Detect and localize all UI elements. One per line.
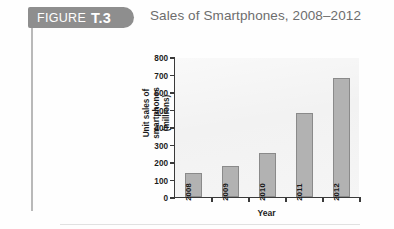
figure-title: Sales of Smartphones, 2008–2012 (150, 8, 361, 23)
y-axis-tick-label: 400 (154, 124, 168, 133)
y-axis-tick-label: 700 (154, 71, 168, 80)
bar-year-label: 2012 (332, 183, 341, 201)
plot-area: 0100200300400500600700800200820092010201… (174, 58, 359, 198)
x-axis-tick (359, 197, 360, 202)
figure-badge-number: T.3 (91, 10, 111, 26)
y-axis-tick (170, 197, 175, 198)
left-vertical-rule (31, 26, 33, 211)
bar: 2010 (259, 153, 276, 197)
figure-page: FIGURE T.3 Sales of Smartphones, 2008–20… (0, 0, 394, 229)
x-axis-tick (322, 197, 323, 202)
y-axis-tick-label: 100 (154, 176, 168, 185)
y-axis-tick (170, 145, 175, 146)
y-axis-tick (170, 75, 175, 76)
bar-chart: Unit sales of smartphones (millions) 010… (123, 50, 368, 220)
bar-year-label: 2011 (295, 183, 304, 200)
x-axis-label: Year (174, 208, 359, 218)
y-axis-tick (170, 162, 175, 163)
bar: 2008 (185, 173, 202, 198)
figure-badge-word: FIGURE (37, 11, 86, 25)
page-bottom-line (60, 224, 360, 225)
figure-badge: FIGURE T.3 (28, 7, 134, 28)
y-axis-tick-label: 200 (154, 159, 168, 168)
bar: 2011 (296, 113, 313, 197)
y-axis-tick-label: 0 (163, 194, 168, 203)
y-axis-tick (170, 127, 175, 128)
bar: 2009 (222, 166, 239, 197)
x-axis-tick (248, 197, 249, 202)
y-axis-tick (170, 110, 175, 111)
y-axis-tick-label: 800 (154, 54, 168, 63)
bar-year-label: 2008 (184, 183, 193, 201)
y-axis-tick-label: 300 (154, 141, 168, 150)
bar-year-label: 2010 (258, 183, 267, 201)
y-axis-tick (170, 180, 175, 181)
x-axis-tick (285, 197, 286, 202)
y-axis-tick (170, 92, 175, 93)
y-axis-tick (170, 57, 175, 58)
x-axis-tick (211, 197, 212, 202)
bar: 2012 (333, 78, 350, 197)
y-axis-tick-label: 600 (154, 89, 168, 98)
bar-year-label: 2009 (221, 183, 230, 201)
y-axis-tick-label: 500 (154, 106, 168, 115)
